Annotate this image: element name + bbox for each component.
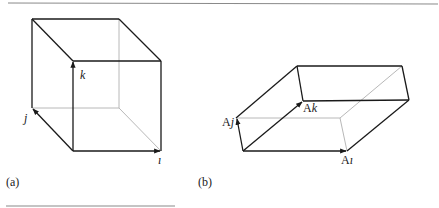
- linear-transformation-figure: k j ı (a) Aj Ak Aı (b): [0, 0, 439, 208]
- top-rule: [8, 3, 438, 4]
- label-j: j: [22, 111, 28, 125]
- label-Ak: Ak: [303, 101, 318, 115]
- vector-Ak-arrow: [243, 102, 302, 151]
- panel-a-cube: k j ı (a): [6, 19, 161, 189]
- caption-a: (a): [6, 175, 19, 189]
- label-k: k: [80, 68, 86, 82]
- label-Ai: Aı: [341, 153, 353, 167]
- label-Aj: Aj: [222, 115, 235, 129]
- vector-Aj-arrow: [237, 119, 243, 151]
- panel-b-parallelepiped: Aj Ak Aı (b): [198, 66, 409, 189]
- caption-b: (b): [198, 175, 212, 189]
- label-i: ı: [158, 153, 161, 167]
- vector-j-arrow: [33, 109, 73, 151]
